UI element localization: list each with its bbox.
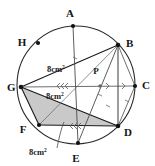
vertex-label-C: C [142, 79, 150, 91]
geometry-figure: A B C D E F G H P 8cm2 8cm2 8cm2 [0, 0, 155, 166]
vertex-dot-C [133, 84, 137, 88]
tick-marks-gp [57, 83, 68, 89]
vertex-dot-B [116, 43, 121, 48]
vertex-dot-F [37, 123, 41, 127]
vertex-label-B: B [126, 37, 134, 49]
area-label-lower: 8cm2 [29, 147, 47, 157]
area-lower-sup: 2 [44, 147, 47, 153]
vertex-dot-H [36, 41, 40, 45]
chord-b-c [118, 45, 135, 86]
geometry-diagram-svg: A B C D E F G H P 8cm2 8cm2 8cm2 [0, 0, 155, 166]
vertex-dot-E [76, 141, 80, 145]
area-label-middle: 8cm2 [46, 91, 64, 101]
area-middle-sup: 2 [61, 91, 64, 97]
vertex-label-F: F [20, 123, 27, 135]
area-lower-text: 8cm [29, 147, 44, 157]
area-label-upper: 8cm2 [47, 64, 65, 74]
leader-line [57, 122, 64, 148]
vertex-label-H: H [18, 36, 27, 48]
area-middle-text: 8cm [46, 91, 61, 101]
vertex-dot-G [19, 85, 24, 90]
intersection-label-P: P [93, 66, 99, 76]
chord-c-d [118, 86, 135, 126]
vertex-dot-D [116, 124, 121, 129]
area-upper-sup: 2 [62, 64, 65, 70]
vertex-dot-P [98, 84, 101, 87]
vertex-label-E: E [72, 152, 79, 164]
area-upper-text: 8cm [47, 64, 62, 74]
vertex-label-D: D [124, 126, 132, 138]
vertex-label-G: G [7, 81, 16, 93]
vertex-label-A: A [66, 7, 74, 19]
vertex-dot-A [71, 24, 75, 28]
